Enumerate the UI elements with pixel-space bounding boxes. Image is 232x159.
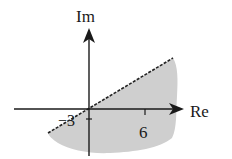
imag-axis-label: Im	[76, 7, 95, 26]
tick-label-6: 6	[139, 123, 148, 142]
tick-label-neg3: −3	[58, 112, 75, 129]
complex-plane-diagram: Im Re 6 −3	[0, 0, 232, 159]
shaded-region	[48, 58, 178, 153]
real-axis-label: Re	[190, 102, 209, 121]
